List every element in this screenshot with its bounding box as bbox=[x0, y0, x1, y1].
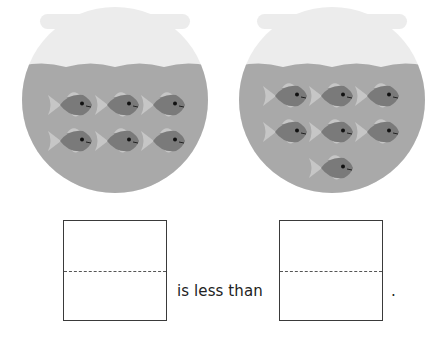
fish-eye bbox=[80, 102, 84, 106]
fish-eye bbox=[295, 93, 299, 97]
fish-eye bbox=[127, 102, 131, 106]
second-box-dashed-midline bbox=[280, 271, 382, 272]
comparison-phrase: is less than bbox=[177, 282, 263, 300]
fish-eye bbox=[387, 129, 391, 133]
bowl-lip bbox=[257, 14, 407, 29]
fish-eye bbox=[387, 93, 391, 97]
fish-eye bbox=[173, 102, 177, 106]
second-answer-box[interactable] bbox=[279, 220, 383, 321]
first-box-dashed-midline bbox=[64, 271, 166, 272]
right-fishbowl bbox=[234, 7, 430, 198]
bowl-water bbox=[17, 64, 213, 199]
fish-eye bbox=[341, 93, 345, 97]
fish-eye bbox=[341, 165, 345, 169]
bowl-lip bbox=[40, 14, 190, 29]
sentence-period: . bbox=[391, 282, 396, 300]
fish-eye bbox=[80, 138, 84, 142]
fish-eye bbox=[173, 138, 177, 142]
left-fishbowl bbox=[17, 7, 213, 198]
fish-eye bbox=[127, 138, 131, 142]
first-answer-box[interactable] bbox=[63, 220, 167, 321]
fish-eye bbox=[295, 129, 299, 133]
fish-eye bbox=[341, 129, 345, 133]
